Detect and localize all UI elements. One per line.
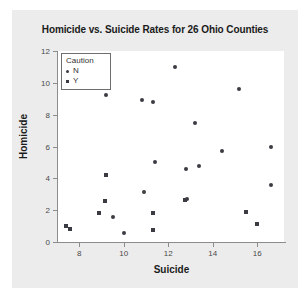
y-axis-tick: [53, 83, 57, 84]
data-point-n: [173, 65, 177, 69]
legend: Caution N Y: [61, 53, 111, 90]
data-point-y: [64, 224, 68, 228]
data-point-y: [255, 222, 259, 226]
data-point-n: [140, 98, 144, 102]
legend-title: Caution: [66, 56, 110, 66]
data-point-n: [269, 183, 273, 187]
x-axis-title: Suicide: [57, 264, 286, 275]
y-axis-tick-label: 12: [41, 47, 50, 56]
y-axis-tick: [53, 147, 57, 148]
x-axis-tick-label: 14: [208, 249, 217, 258]
legend-marker-square-icon: [66, 80, 69, 83]
chart-title: Homicide vs. Suicide Rates for 26 Ohio C…: [12, 24, 298, 35]
x-axis-tick: [257, 243, 258, 247]
y-axis-line: [57, 51, 58, 243]
y-axis-tick-label: 4: [46, 174, 50, 183]
y-axis-tick: [53, 51, 57, 52]
x-axis-tick: [79, 243, 80, 247]
data-point-y: [68, 227, 72, 231]
data-point-y: [151, 228, 155, 232]
y-axis-tick: [53, 242, 57, 243]
data-point-n: [104, 93, 108, 97]
x-axis-tick-label: 10: [119, 249, 128, 258]
data-point-n: [269, 145, 273, 149]
y-axis-tick-label: 6: [46, 142, 50, 151]
data-point-n: [193, 121, 197, 125]
data-point-y: [151, 211, 155, 215]
data-point-n: [184, 167, 188, 171]
y-axis-tick-label: 2: [46, 206, 50, 215]
y-axis-tick: [53, 115, 57, 116]
data-point-y: [244, 210, 248, 214]
data-point-y: [183, 198, 187, 202]
data-point-y: [97, 211, 101, 215]
data-point-n: [111, 215, 115, 219]
y-axis-tick-label: 10: [41, 78, 50, 87]
x-axis-tick: [213, 243, 214, 247]
x-axis-line: [57, 242, 286, 243]
data-point-y: [103, 199, 107, 203]
data-point-n: [151, 100, 155, 104]
y-axis-tick-label: 0: [46, 238, 50, 247]
y-axis-tick: [53, 178, 57, 179]
x-axis-tick: [168, 243, 169, 247]
data-point-n: [122, 231, 126, 235]
legend-label-y: Y: [73, 76, 78, 86]
x-axis-tick-label: 8: [77, 249, 81, 258]
x-axis-tick: [124, 243, 125, 247]
legend-item-n: N: [66, 66, 110, 76]
y-axis-title: Homicide: [18, 97, 29, 177]
y-axis-tick: [53, 210, 57, 211]
x-axis-tick-label: 12: [164, 249, 173, 258]
data-point-y: [104, 173, 108, 177]
legend-marker-circle-icon: [66, 70, 69, 73]
x-axis-tick-label: 16: [253, 249, 262, 258]
legend-label-n: N: [73, 66, 79, 76]
chart-figure: Homicide vs. Suicide Rates for 26 Ohio C…: [0, 0, 308, 296]
legend-item-y: Y: [66, 76, 110, 86]
data-point-n: [220, 149, 224, 153]
y-axis-tick-label: 8: [46, 110, 50, 119]
data-point-n: [142, 190, 146, 194]
